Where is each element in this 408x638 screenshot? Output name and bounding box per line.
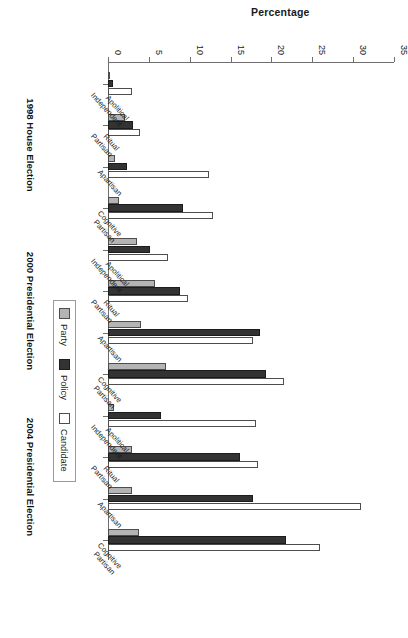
- bar-candidate: [108, 295, 188, 302]
- y-axis-tick: [353, 57, 354, 62]
- x-axis-tick: [103, 167, 108, 168]
- bar-candidate: [108, 212, 213, 219]
- bar-candidate: [108, 378, 284, 385]
- rotated-figure-wrapper: Percentage 05101520253035 ApoliticalInde…: [0, 0, 408, 638]
- bar-policy: [108, 204, 183, 211]
- bar-policy: [108, 453, 240, 460]
- bar-party: [108, 321, 141, 328]
- y-axis-title: Percentage: [251, 6, 310, 18]
- y-axis-tick-label: 10: [195, 45, 205, 55]
- bar-candidate: [108, 503, 361, 510]
- bar-candidate: [108, 129, 140, 136]
- bar-policy: [108, 412, 161, 419]
- bar-candidate: [108, 88, 132, 95]
- group-label: 2000 Presidential Election: [25, 228, 36, 394]
- y-axis-tick-label: 25: [317, 45, 327, 55]
- y-axis-tick: [271, 57, 272, 62]
- y-axis-tick-label: 0: [113, 50, 123, 55]
- bar-party: [108, 529, 139, 536]
- legend-label-candidate: Candidate: [59, 429, 70, 472]
- legend-swatch-policy: [59, 359, 70, 370]
- y-axis-tick: [312, 57, 313, 62]
- legend-item-policy: Policy: [59, 359, 70, 400]
- y-axis-tick: [149, 57, 150, 62]
- y-axis-tick-label: 30: [358, 45, 368, 55]
- bar-policy: [108, 536, 286, 543]
- y-axis-tick: [108, 57, 109, 62]
- x-axis-tick: [103, 84, 108, 85]
- bar-party: [108, 487, 132, 494]
- bar-candidate: [108, 461, 258, 468]
- y-axis-tick-label: 15: [236, 45, 246, 55]
- x-axis-tick: [103, 208, 108, 209]
- bar-chart-figure: Percentage 05101520253035 ApoliticalInde…: [0, 0, 408, 638]
- bar-policy: [108, 329, 260, 336]
- legend-label-policy: Policy: [59, 375, 70, 400]
- x-axis-tick: [103, 333, 108, 334]
- bar-candidate: [108, 337, 253, 344]
- bar-candidate: [108, 420, 256, 427]
- bar-policy: [108, 370, 266, 377]
- bar-policy: [108, 246, 150, 253]
- legend-swatch-party: [59, 308, 70, 319]
- bar-policy: [108, 80, 113, 87]
- legend-item-party: Party: [59, 308, 70, 346]
- bar-candidate: [108, 544, 320, 551]
- chart-legend: PartyPolicyCandidate: [53, 300, 76, 482]
- y-axis-tick: [231, 57, 232, 62]
- bar-policy: [108, 495, 253, 502]
- group-label: 1998 House Election: [25, 62, 36, 228]
- x-axis-tick: [103, 125, 108, 126]
- y-axis-tick-label: 5: [154, 50, 164, 55]
- y-axis-tick-label: 20: [276, 45, 286, 55]
- legend-swatch-candidate: [59, 413, 70, 424]
- bar-party: [108, 197, 119, 204]
- bar-candidate: [108, 254, 168, 261]
- y-axis-tick: [190, 57, 191, 62]
- legend-item-candidate: Candidate: [59, 413, 70, 472]
- x-axis-tick: [103, 374, 108, 375]
- bar-candidate: [108, 171, 209, 178]
- x-axis-tick: [103, 499, 108, 500]
- x-axis-tick: [103, 457, 108, 458]
- legend-label-party: Party: [59, 324, 70, 346]
- bar-policy: [108, 163, 127, 170]
- x-axis-tick: [103, 540, 108, 541]
- y-axis-line: [108, 62, 394, 63]
- bar-party: [108, 72, 110, 79]
- y-axis-tick-label: 35: [399, 45, 408, 55]
- x-axis-tick: [103, 291, 108, 292]
- group-label: 2004 Presidential Election: [25, 394, 36, 560]
- plot-area: 05101520253035 ApoliticalIndependentRitu…: [108, 62, 394, 560]
- x-axis-tick: [103, 416, 108, 417]
- x-axis-tick: [103, 250, 108, 251]
- y-axis-tick: [394, 57, 395, 62]
